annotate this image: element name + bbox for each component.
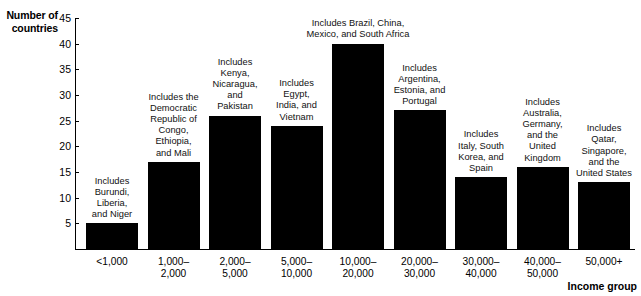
x-axis-tick-label-line1: <1,000 (79, 256, 145, 268)
x-axis-tick-label-line1: 5,000– (264, 256, 330, 268)
y-axis-tick-label: 40 (45, 39, 71, 50)
bar-annotation-line: Democratic (141, 103, 207, 114)
x-axis-tick-label-line1: 20,000– (387, 256, 453, 268)
x-axis-tick-label-line2: 50,000 (510, 268, 576, 280)
bar-annotation-line: and the (571, 157, 637, 168)
x-axis-tick-label-line2: 30,000 (387, 268, 453, 280)
bar-annotation-line: Kenya, (202, 68, 268, 79)
bar-annotation-line: United (510, 141, 576, 152)
bar-annotation-line: Republic of (141, 114, 207, 125)
y-axis-tick-label: 30 (45, 90, 71, 101)
x-axis-tick-label-line1: 40,000– (510, 256, 576, 268)
bar-annotation-line: Spain (448, 163, 514, 174)
bar-annotation-line: Mexico, and South Africa (268, 29, 448, 40)
bar-annotation: Includes theDemocraticRepublic ofCongo,E… (141, 92, 207, 159)
x-axis-tick-label-line1: 50,000+ (571, 256, 637, 268)
y-axis-tick (75, 146, 79, 147)
bar-annotation-line: Congo, (141, 125, 207, 136)
bar-annotation-line: and Mali (141, 148, 207, 159)
bar-annotation-line: Australia, (510, 108, 576, 119)
bar-annotation-line: Pakistan (202, 101, 268, 112)
bar-annotation-line: Korea, and (448, 152, 514, 163)
bar (86, 223, 138, 249)
x-axis-tick-label: 5,000–10,000 (264, 256, 330, 281)
bar (394, 110, 446, 249)
bar-annotation-line: and the (510, 130, 576, 141)
y-axis-tick (75, 223, 79, 224)
bar-annotation-line: Burundi, (79, 187, 145, 198)
bar-annotation-line: Includes (264, 78, 330, 89)
y-axis-tick (75, 18, 79, 19)
bar-annotation-line: Includes (79, 176, 145, 187)
bar (332, 44, 384, 249)
bar (517, 167, 569, 249)
x-axis-tick-label: 30,000–40,000 (448, 256, 514, 281)
bar (271, 126, 323, 249)
y-axis-line (75, 18, 76, 250)
bar-annotation-line: Includes (387, 63, 453, 74)
bar-annotation-line: Ethiopia, (141, 136, 207, 147)
x-axis-tick-label: <1,000 (79, 256, 145, 268)
y-axis-tick-label: 15 (45, 167, 71, 178)
y-axis-tick (75, 121, 79, 122)
x-axis-tick-label-line2: 20,000 (325, 268, 391, 280)
x-axis-tick-label: 40,000–50,000 (510, 256, 576, 281)
bar-chart: Number of countries 45403530252015105 In… (0, 0, 641, 296)
x-axis-tick-label-line2: 5,000 (202, 268, 268, 280)
bar-annotation-line: Portugal (387, 96, 453, 107)
x-axis-tick-label-line1: 30,000– (448, 256, 514, 268)
bar (578, 182, 630, 249)
x-axis-tick-label-line1: 10,000– (325, 256, 391, 268)
y-axis-tick (75, 69, 79, 70)
bar (209, 116, 261, 249)
y-axis-tick (75, 172, 79, 173)
bar (148, 162, 200, 249)
bar-annotation: IncludesAustralia,Germany,and theUnitedK… (510, 97, 576, 164)
bar-annotation-line: Includes Brazil, China, (268, 18, 448, 29)
bar-annotation-line: and Niger (79, 209, 145, 220)
y-axis-tick-label: 5 (45, 218, 71, 229)
x-axis-tick-label: 1,000–2,000 (141, 256, 207, 281)
bar-annotation: Includes Brazil, China,Mexico, and South… (268, 18, 448, 40)
bar-annotation-line: Egypt, (264, 89, 330, 100)
bar-annotation-line: Includes (510, 97, 576, 108)
bar-annotation-line: Includes (202, 57, 268, 68)
x-axis-tick-label-line2: 40,000 (448, 268, 514, 280)
x-axis-tick-label: 10,000–20,000 (325, 256, 391, 281)
bar-annotation: IncludesArgentina,Estonia, andPortugal (387, 63, 453, 108)
y-axis-tick (75, 95, 79, 96)
bar-annotation-line: India, and (264, 100, 330, 111)
x-axis-tick-label-line2: 2,000 (141, 268, 207, 280)
x-axis-tick-label-line1: 2,000– (202, 256, 268, 268)
bar-annotation-line: Singapore, (571, 146, 637, 157)
bar-annotation-line: United States (571, 168, 637, 179)
x-axis-line (75, 249, 635, 250)
bar-annotation-line: Germany, (510, 119, 576, 130)
y-axis-tick-label: 25 (45, 116, 71, 127)
bar-annotation-line: Vietnam (264, 112, 330, 123)
bar-annotation-line: Qatar, (571, 134, 637, 145)
bar (455, 177, 507, 249)
y-axis-tick-label: 10 (45, 193, 71, 204)
bar-annotation-line: Liberia, (79, 198, 145, 209)
x-axis-tick-label-line1: 1,000– (141, 256, 207, 268)
bar-annotation-line: and (202, 90, 268, 101)
bar-annotation: IncludesKenya,Nicaragua,andPakistan (202, 57, 268, 113)
x-axis-tick-label: 50,000+ (571, 256, 637, 268)
bar-annotation-line: Kingdom (510, 153, 576, 164)
x-axis-tick-label: 20,000–30,000 (387, 256, 453, 281)
y-axis-tick (75, 44, 79, 45)
y-axis-tick-label: 20 (45, 141, 71, 152)
bar-annotation-line: Argentina, (387, 74, 453, 85)
bar-annotation-line: Estonia, and (387, 85, 453, 96)
x-axis-title: Income group (568, 281, 637, 292)
bar-annotation-line: Includes the (141, 92, 207, 103)
x-axis-tick-label: 2,000–5,000 (202, 256, 268, 281)
bar-annotation-line: Includes (448, 129, 514, 140)
bar-annotation-line: Includes (571, 123, 637, 134)
bar-annotation-line: Nicaragua, (202, 79, 268, 90)
y-axis-tick-label: 45 (45, 13, 71, 24)
bar-annotation: IncludesBurundi,Liberia,and Niger (79, 176, 145, 221)
bar-annotation: IncludesItaly, SouthKorea, andSpain (448, 129, 514, 174)
x-axis-tick-label-line2: 10,000 (264, 268, 330, 280)
